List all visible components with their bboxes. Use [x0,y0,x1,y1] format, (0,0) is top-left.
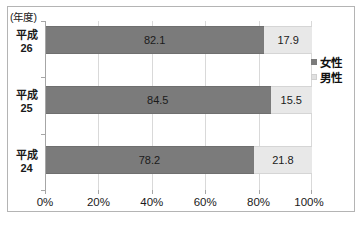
bar-value-female-24: 78.2 [139,154,160,166]
x-tick-mark-40 [152,190,153,194]
x-tick-label-80: 80% [247,196,270,208]
bar-value-female-26: 82.1 [144,34,165,46]
x-tick-label-100: 100% [294,196,323,208]
legend-item-male[interactable]: 男性 [311,70,356,84]
bar-row-heisei-24[interactable]: 78.2 21.8 [45,146,312,174]
x-tick-label-40: 40% [140,196,163,208]
bar-segment-female-24[interactable]: 78.2 [45,146,254,174]
bar-segment-female-25[interactable]: 84.5 [45,86,271,114]
legend-swatch-female-icon [311,59,317,65]
x-tick-label-0: 0% [37,196,54,208]
y-tick-1 [41,77,45,78]
bar-segment-male-24[interactable]: 21.8 [254,146,312,174]
category-label-line1-26: 平成 [8,29,45,42]
x-tick-mark-60 [205,190,206,194]
x-tick-mark-20 [98,190,99,194]
bar-value-male-25: 15.5 [281,94,302,106]
y-axis-line [45,21,46,190]
category-label-line1-24: 平成 [8,149,45,162]
y-tick-top [41,21,45,22]
x-tick-mark-80 [259,190,260,194]
bar-value-male-24: 21.8 [272,154,293,166]
x-tick-label-60: 60% [194,196,217,208]
bar-row-heisei-26[interactable]: 82.1 17.9 [45,26,312,54]
legend-swatch-male-icon [311,74,317,80]
x-tick-mark-100 [311,190,312,194]
x-tick-mark-0 [45,190,46,194]
category-label-line1-25: 平成 [8,89,45,102]
legend-item-female[interactable]: 女性 [311,55,356,69]
category-label-heisei-25: 平成 25 [8,89,45,115]
category-label-line2-26: 26 [8,42,45,55]
category-label-line2-25: 25 [8,102,45,115]
category-label-heisei-24: 平成 24 [8,149,45,175]
chart-legend: 女性 男性 [311,55,356,85]
bar-segment-male-26[interactable]: 17.9 [264,26,312,54]
y-tick-2 [41,134,45,135]
legend-label-male: 男性 [320,69,342,85]
bar-segment-female-26[interactable]: 82.1 [45,26,264,54]
x-tick-label-20: 20% [87,196,110,208]
category-label-heisei-26: 平成 26 [8,29,45,55]
bar-value-male-26: 17.9 [277,34,298,46]
bar-value-female-25: 84.5 [147,94,168,106]
bar-segment-male-25[interactable]: 15.5 [271,86,312,114]
x-axis: 0% 20% 40% 60% 80% 100% [45,190,312,212]
bar-row-heisei-25[interactable]: 84.5 15.5 [45,86,312,114]
category-label-line2-24: 24 [8,162,45,175]
y-axis-unit-label: (年度) [10,9,37,24]
plot-area: 82.1 17.9 84.5 15.5 78.2 21.8 [45,21,312,190]
chart-container: (年度) 82.1 17.9 84.5 15.5 [7,6,355,212]
legend-label-female: 女性 [320,54,342,70]
